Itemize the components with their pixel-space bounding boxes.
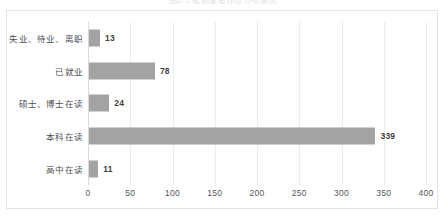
- x-tick-label: 100: [165, 188, 180, 198]
- bar-value-label: 11: [103, 164, 112, 174]
- x-tick-label: 200: [250, 188, 265, 198]
- bar-row: 已就业78: [88, 55, 426, 88]
- x-tick-label: 250: [292, 188, 307, 198]
- x-tick-label: 150: [207, 188, 222, 198]
- bar-value-label: 13: [105, 33, 115, 43]
- x-tick-label: 400: [419, 188, 434, 198]
- bar-row: 本科在读339: [88, 120, 426, 153]
- x-tick-label: 350: [376, 188, 391, 198]
- bar[interactable]: [89, 30, 100, 47]
- x-tick-label: 50: [125, 188, 135, 198]
- bar-row: 失业、待业、离职13: [88, 22, 426, 55]
- x-tick-label: 300: [334, 188, 349, 198]
- bar[interactable]: [89, 160, 98, 177]
- bar[interactable]: [89, 128, 375, 145]
- category-label: 失业、待业、离职: [9, 32, 83, 44]
- figure-caption-text: 图2-1 被调查者身份分布情况: [169, 0, 277, 5]
- bar-chart-screenshot: 图2-1 被调查者身份分布情况 失业、待业、离职13已就业78硕士、博士在读24…: [0, 0, 445, 218]
- category-label: 已就业: [55, 65, 83, 77]
- chart-frame: 失业、待业、离职13已就业78硕士、博士在读24本科在读339高中在读11 05…: [6, 10, 438, 209]
- category-label: 硕士、博士在读: [19, 97, 83, 109]
- bar[interactable]: [89, 95, 109, 112]
- bar-value-label: 339: [380, 131, 395, 141]
- figure-caption-clipped: 图2-1 被调查者身份分布情况: [0, 0, 445, 7]
- bar-value-label: 78: [160, 66, 170, 76]
- bar-value-label: 24: [114, 98, 124, 108]
- category-label: 本科在读: [46, 130, 83, 142]
- plot-area: 失业、待业、离职13已就业78硕士、博士在读24本科在读339高中在读11: [88, 22, 426, 185]
- category-label: 高中在读: [46, 163, 83, 175]
- bar[interactable]: [89, 62, 155, 79]
- bar-row: 硕士、博士在读24: [88, 87, 426, 120]
- bar-row: 高中在读11: [88, 152, 426, 185]
- x-tick-label: 0: [86, 188, 91, 198]
- x-axis: 050100150200250300350400: [88, 185, 426, 201]
- gridline-400: [426, 22, 427, 185]
